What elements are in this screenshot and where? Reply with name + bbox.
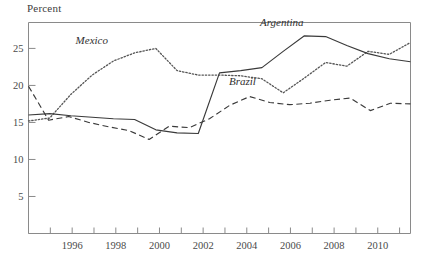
x-tick-label: 2008 xyxy=(324,240,345,251)
y-tick-label: 5 xyxy=(18,191,23,202)
x-tick-label: 2000 xyxy=(149,240,170,251)
x-tick-label: 2006 xyxy=(280,240,301,251)
x-tick-label: 1996 xyxy=(62,240,83,251)
series-label-mexico: Mexico xyxy=(75,34,109,46)
series-label-brazil: Brazil xyxy=(229,75,256,87)
x-tick-label: 1998 xyxy=(105,240,126,251)
y-tick-label: 20 xyxy=(13,80,24,91)
line-chart-canvas: 5101520251996199820002002200420062008201… xyxy=(0,0,422,261)
x-tick-label: 2002 xyxy=(193,240,214,251)
y-tick-label: 10 xyxy=(13,154,24,165)
series-line-mexico xyxy=(29,42,411,120)
series-line-brazil xyxy=(29,86,411,139)
chart-figure: Percent 51015202519961998200020022004200… xyxy=(0,0,422,261)
series-line-argentina xyxy=(29,36,411,134)
x-tick-label: 2004 xyxy=(236,240,258,251)
y-tick-label: 15 xyxy=(13,117,24,128)
plot-frame xyxy=(29,23,411,234)
x-tick-label: 2010 xyxy=(367,240,388,251)
y-tick-label: 25 xyxy=(13,43,24,54)
series-label-argentina: Argentina xyxy=(259,16,304,28)
